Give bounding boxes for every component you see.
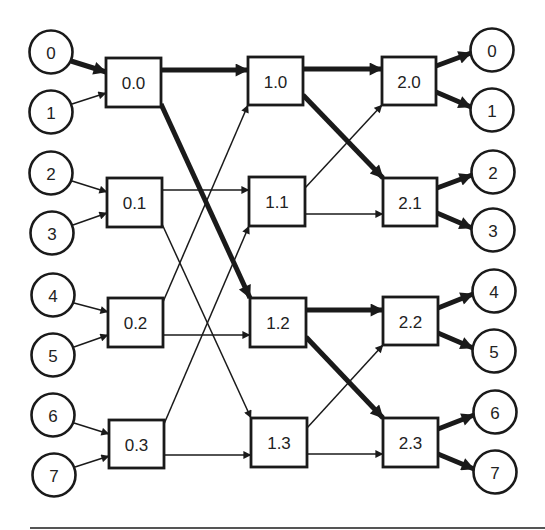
switch-label: 2.3 [399, 434, 423, 453]
switch-1-1: 1.1 [249, 177, 305, 226]
input-label: 3 [47, 225, 56, 244]
edge-s20-to-out0 [436, 53, 471, 66]
output-label: 2 [488, 164, 497, 183]
edge-s21-to-out3 [437, 213, 472, 228]
edge-s23-to-out7 [438, 454, 474, 469]
switch-1-3: 1.3 [251, 418, 307, 467]
input-node-4: 4 [32, 274, 75, 317]
switch-label: 0.1 [123, 194, 147, 213]
edge-s11-to-s20 [305, 105, 382, 188]
switch-label: 2.1 [398, 194, 422, 213]
edge-s13-to-s22 [307, 345, 383, 428]
output-node-4: 4 [473, 270, 516, 313]
edge-in5-to-s02 [74, 335, 108, 347]
switch-label: 0.2 [124, 314, 148, 333]
input-node-5: 5 [32, 334, 75, 377]
output-node-5: 5 [473, 330, 516, 373]
input-node-2: 2 [30, 152, 73, 195]
edge-in6-to-s03 [74, 423, 109, 434]
output-node-1: 1 [471, 89, 514, 132]
input-node-0: 0 [30, 31, 73, 74]
switch-label: 1.0 [264, 73, 288, 92]
input-label: 1 [46, 104, 55, 123]
output-label: 3 [488, 222, 497, 241]
edge-in1-to-s00 [72, 93, 106, 104]
switch-label: 0.0 [122, 74, 146, 93]
edge-s21-to-out2 [437, 175, 472, 188]
output-label: 0 [487, 42, 496, 61]
switch-0-1: 0.1 [107, 178, 162, 227]
output-node-3: 3 [472, 209, 515, 252]
output-label: 1 [487, 102, 496, 121]
input-label: 4 [48, 287, 57, 306]
input-node-6: 6 [32, 394, 75, 437]
output-node-2: 2 [472, 151, 515, 194]
input-label: 2 [46, 165, 55, 184]
output-label: 6 [490, 404, 499, 423]
edge-s10-to-s21 [303, 95, 383, 178]
output-node-6: 6 [474, 391, 517, 434]
edge-s22-to-out4 [438, 294, 473, 308]
switch-label: 2.0 [397, 73, 421, 92]
input-node-3: 3 [31, 212, 74, 255]
switch-label: 1.3 [267, 434, 291, 453]
output-label: 7 [490, 464, 499, 483]
switch-1-2: 1.2 [250, 298, 306, 347]
switch-label: 1.1 [265, 193, 289, 212]
edge-in0-to-s00 [71, 61, 106, 72]
input-node-7: 7 [33, 454, 76, 497]
switch-0-3: 0.3 [109, 420, 164, 468]
output-node-0: 0 [471, 29, 514, 72]
switch-label: 0.3 [125, 436, 149, 455]
edges-layer [71, 53, 474, 469]
input-label: 0 [46, 44, 55, 63]
output-label: 5 [489, 343, 498, 362]
edge-s12-to-s23 [306, 337, 383, 418]
edge-s23-to-out6 [438, 415, 474, 429]
switch-0-0: 0.0 [106, 58, 161, 107]
switch-2-1: 2.1 [383, 178, 437, 226]
edge-in2-to-s01 [72, 181, 107, 192]
input-node-1: 1 [30, 91, 73, 134]
edge-s20-to-out1 [436, 92, 471, 107]
switch-0-2: 0.2 [108, 298, 163, 347]
switch-1-0: 1.0 [248, 57, 303, 105]
switch-2-3: 2.3 [383, 418, 438, 467]
input-label: 7 [49, 467, 58, 486]
switch-2-0: 2.0 [382, 57, 436, 105]
edge-in3-to-s01 [73, 213, 107, 225]
output-label: 4 [489, 283, 498, 302]
switch-label: 1.2 [266, 314, 290, 333]
input-label: 6 [48, 407, 57, 426]
output-node-7: 7 [474, 451, 517, 494]
switch-label: 2.2 [399, 313, 423, 332]
switch-2-2: 2.2 [383, 297, 438, 345]
edge-in7-to-s03 [75, 456, 109, 467]
edge-in4-to-s02 [74, 303, 108, 312]
butterfly-network-diagram: 01234567012345670.00.10.20.31.01.11.21.3… [0, 0, 545, 530]
input-label: 5 [48, 347, 57, 366]
edge-s22-to-out5 [438, 333, 473, 348]
